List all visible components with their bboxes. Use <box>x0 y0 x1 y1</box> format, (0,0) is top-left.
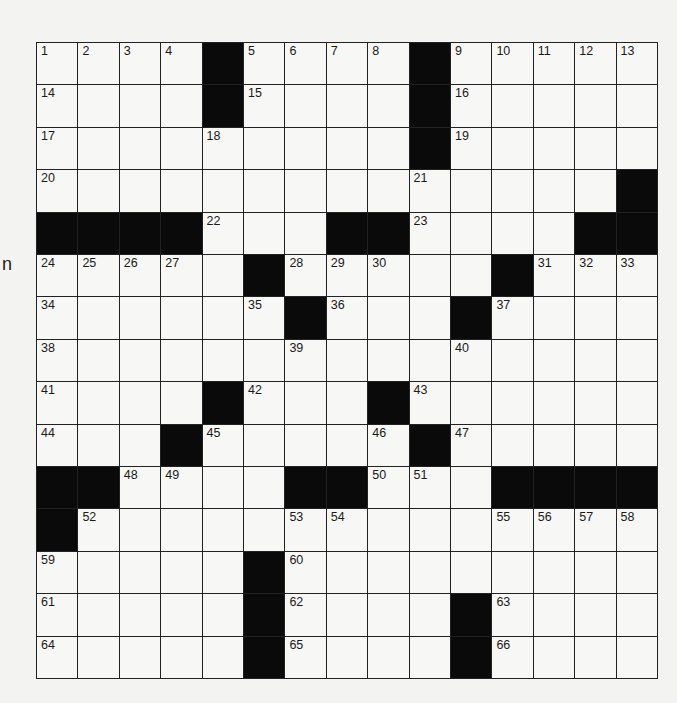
grid-cell[interactable] <box>617 85 657 126</box>
grid-cell[interactable]: 4 <box>161 43 201 84</box>
grid-cell[interactable] <box>410 637 450 678</box>
grid-cell[interactable]: 23 <box>410 213 450 254</box>
grid-cell[interactable] <box>161 552 201 593</box>
grid-cell[interactable]: 7 <box>327 43 367 84</box>
grid-cell[interactable] <box>244 467 284 508</box>
grid-cell[interactable] <box>617 594 657 635</box>
grid-cell[interactable] <box>492 340 532 381</box>
grid-cell[interactable]: 26 <box>120 255 160 296</box>
grid-cell[interactable]: 48 <box>120 467 160 508</box>
grid-cell[interactable] <box>534 637 574 678</box>
grid-cell[interactable]: 19 <box>451 128 491 169</box>
grid-cell[interactable] <box>203 467 243 508</box>
grid-cell[interactable] <box>451 467 491 508</box>
grid-cell[interactable] <box>161 340 201 381</box>
grid-cell[interactable] <box>534 128 574 169</box>
grid-cell[interactable]: 1 <box>37 43 77 84</box>
grid-cell[interactable] <box>285 85 325 126</box>
grid-cell[interactable] <box>368 170 408 211</box>
grid-cell[interactable] <box>327 85 367 126</box>
grid-cell[interactable]: 49 <box>161 467 201 508</box>
grid-cell[interactable]: 21 <box>410 170 450 211</box>
grid-cell[interactable] <box>368 509 408 550</box>
grid-cell[interactable]: 60 <box>285 552 325 593</box>
grid-cell[interactable] <box>575 85 615 126</box>
grid-cell[interactable]: 61 <box>37 594 77 635</box>
grid-cell[interactable]: 20 <box>37 170 77 211</box>
grid-cell[interactable]: 24 <box>37 255 77 296</box>
grid-cell[interactable] <box>492 382 532 423</box>
grid-cell[interactable]: 33 <box>617 255 657 296</box>
grid-cell[interactable] <box>120 128 160 169</box>
grid-cell[interactable] <box>161 170 201 211</box>
grid-cell[interactable] <box>534 85 574 126</box>
grid-cell[interactable] <box>492 170 532 211</box>
grid-cell[interactable] <box>203 552 243 593</box>
grid-cell[interactable] <box>368 128 408 169</box>
grid-cell[interactable] <box>244 340 284 381</box>
grid-cell[interactable]: 16 <box>451 85 491 126</box>
grid-cell[interactable] <box>78 594 118 635</box>
grid-cell[interactable]: 66 <box>492 637 532 678</box>
grid-cell[interactable] <box>575 382 615 423</box>
grid-cell[interactable] <box>203 170 243 211</box>
grid-cell[interactable] <box>410 594 450 635</box>
grid-cell[interactable] <box>575 425 615 466</box>
grid-cell[interactable] <box>368 340 408 381</box>
grid-cell[interactable] <box>575 552 615 593</box>
grid-cell[interactable] <box>203 297 243 338</box>
grid-cell[interactable] <box>203 255 243 296</box>
grid-cell[interactable] <box>161 509 201 550</box>
grid-cell[interactable]: 3 <box>120 43 160 84</box>
grid-cell[interactable] <box>120 425 160 466</box>
grid-cell[interactable]: 27 <box>161 255 201 296</box>
grid-cell[interactable] <box>617 552 657 593</box>
grid-cell[interactable] <box>368 297 408 338</box>
grid-cell[interactable] <box>203 509 243 550</box>
grid-cell[interactable] <box>327 382 367 423</box>
grid-cell[interactable]: 10 <box>492 43 532 84</box>
grid-cell[interactable] <box>617 637 657 678</box>
grid-cell[interactable] <box>285 213 325 254</box>
grid-cell[interactable]: 46 <box>368 425 408 466</box>
grid-cell[interactable] <box>451 213 491 254</box>
grid-cell[interactable] <box>203 594 243 635</box>
grid-cell[interactable] <box>78 128 118 169</box>
grid-cell[interactable]: 35 <box>244 297 284 338</box>
grid-cell[interactable] <box>327 340 367 381</box>
grid-cell[interactable] <box>327 552 367 593</box>
grid-cell[interactable]: 50 <box>368 467 408 508</box>
grid-cell[interactable] <box>617 340 657 381</box>
grid-cell[interactable]: 44 <box>37 425 77 466</box>
grid-cell[interactable]: 13 <box>617 43 657 84</box>
grid-cell[interactable]: 38 <box>37 340 77 381</box>
grid-cell[interactable] <box>120 297 160 338</box>
grid-cell[interactable]: 14 <box>37 85 77 126</box>
grid-cell[interactable] <box>368 637 408 678</box>
grid-cell[interactable] <box>492 552 532 593</box>
grid-cell[interactable] <box>120 85 160 126</box>
grid-cell[interactable] <box>451 382 491 423</box>
grid-cell[interactable]: 37 <box>492 297 532 338</box>
grid-cell[interactable] <box>120 509 160 550</box>
grid-cell[interactable]: 29 <box>327 255 367 296</box>
grid-cell[interactable] <box>285 382 325 423</box>
grid-cell[interactable] <box>575 170 615 211</box>
grid-cell[interactable] <box>244 509 284 550</box>
grid-cell[interactable] <box>161 382 201 423</box>
grid-cell[interactable] <box>534 340 574 381</box>
grid-cell[interactable]: 5 <box>244 43 284 84</box>
grid-cell[interactable] <box>534 425 574 466</box>
grid-cell[interactable] <box>203 637 243 678</box>
grid-cell[interactable] <box>161 85 201 126</box>
grid-cell[interactable] <box>327 170 367 211</box>
grid-cell[interactable] <box>120 594 160 635</box>
grid-cell[interactable] <box>327 128 367 169</box>
grid-cell[interactable] <box>285 128 325 169</box>
grid-cell[interactable] <box>285 170 325 211</box>
grid-cell[interactable] <box>244 170 284 211</box>
grid-cell[interactable]: 43 <box>410 382 450 423</box>
grid-cell[interactable] <box>78 382 118 423</box>
grid-cell[interactable]: 58 <box>617 509 657 550</box>
grid-cell[interactable] <box>120 170 160 211</box>
